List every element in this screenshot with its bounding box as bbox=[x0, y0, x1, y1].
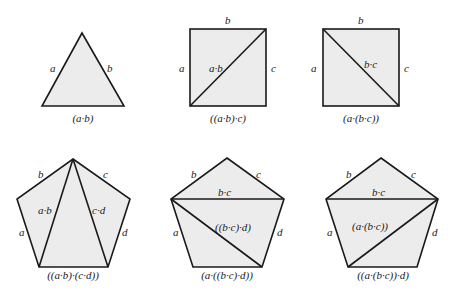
figure-pentagon-3: b c a d b·c (a·(b·c)) ((a·(b·c))·d) bbox=[326, 158, 438, 282]
edge-label-b: b bbox=[38, 168, 44, 180]
edge-label-b: b bbox=[225, 14, 231, 26]
edge-label-a: a bbox=[50, 62, 56, 74]
edge-label-a: a bbox=[179, 62, 185, 74]
diagonal-label: a·b bbox=[209, 62, 223, 74]
edge-label-a: a bbox=[173, 226, 179, 238]
edge-label-b: b bbox=[358, 14, 364, 26]
edge-label-b: b bbox=[107, 62, 113, 74]
polygon-triangulations-diagram: a b (a·b) b a c a·b ((a·b)·c) b a c b·c … bbox=[0, 0, 450, 294]
figure-square-right-assoc: b a c b·c (a·(b·c)) bbox=[311, 14, 409, 125]
figure-pentagon-2: b c a d b·c ((b·c)·d) (a·((b·c)·d)) bbox=[171, 158, 284, 282]
figure-caption: (a·((b·c)·d)) bbox=[201, 269, 253, 282]
diagonal-label-abc: (a·(b·c)) bbox=[352, 220, 388, 233]
edge-label-a: a bbox=[327, 226, 333, 238]
diagonal-label-bc: b·c bbox=[218, 186, 231, 198]
edge-label-c: c bbox=[404, 62, 409, 74]
pentagon-shape bbox=[17, 159, 130, 267]
figure-caption: ((a·b)·c) bbox=[210, 112, 246, 125]
edge-label-c: c bbox=[411, 168, 416, 180]
figure-caption: ((a·(b·c))·d) bbox=[357, 269, 409, 282]
diagonal-label-bcd: ((b·c)·d) bbox=[215, 221, 251, 234]
figure-pentagon-1: b c a d a·b c·d ((a·b)·(c·d)) bbox=[17, 159, 130, 282]
figure-caption: (a·(b·c)) bbox=[343, 112, 379, 125]
edge-label-b: b bbox=[191, 168, 197, 180]
edge-label-a: a bbox=[311, 62, 317, 74]
diagonal-label: b·c bbox=[364, 58, 377, 70]
diagonal-label-ab: a·b bbox=[38, 204, 52, 216]
figure-triangle: a b (a·b) bbox=[42, 33, 124, 125]
diagonal-label-bc: b·c bbox=[372, 186, 385, 198]
edge-label-c: c bbox=[256, 168, 261, 180]
edge-label-a: a bbox=[19, 226, 25, 238]
edge-label-b: b bbox=[346, 168, 352, 180]
edge-label-c: c bbox=[103, 168, 108, 180]
edge-label-d: d bbox=[432, 226, 438, 238]
figure-square-left-assoc: b a c a·b ((a·b)·c) bbox=[179, 14, 276, 125]
edge-label-c: c bbox=[271, 62, 276, 74]
figure-caption: (a·b) bbox=[72, 112, 93, 125]
diagonal-label-cd: c·d bbox=[92, 204, 106, 216]
figure-caption: ((a·b)·(c·d)) bbox=[47, 269, 99, 282]
edge-label-d: d bbox=[122, 226, 128, 238]
edge-label-d: d bbox=[277, 226, 283, 238]
